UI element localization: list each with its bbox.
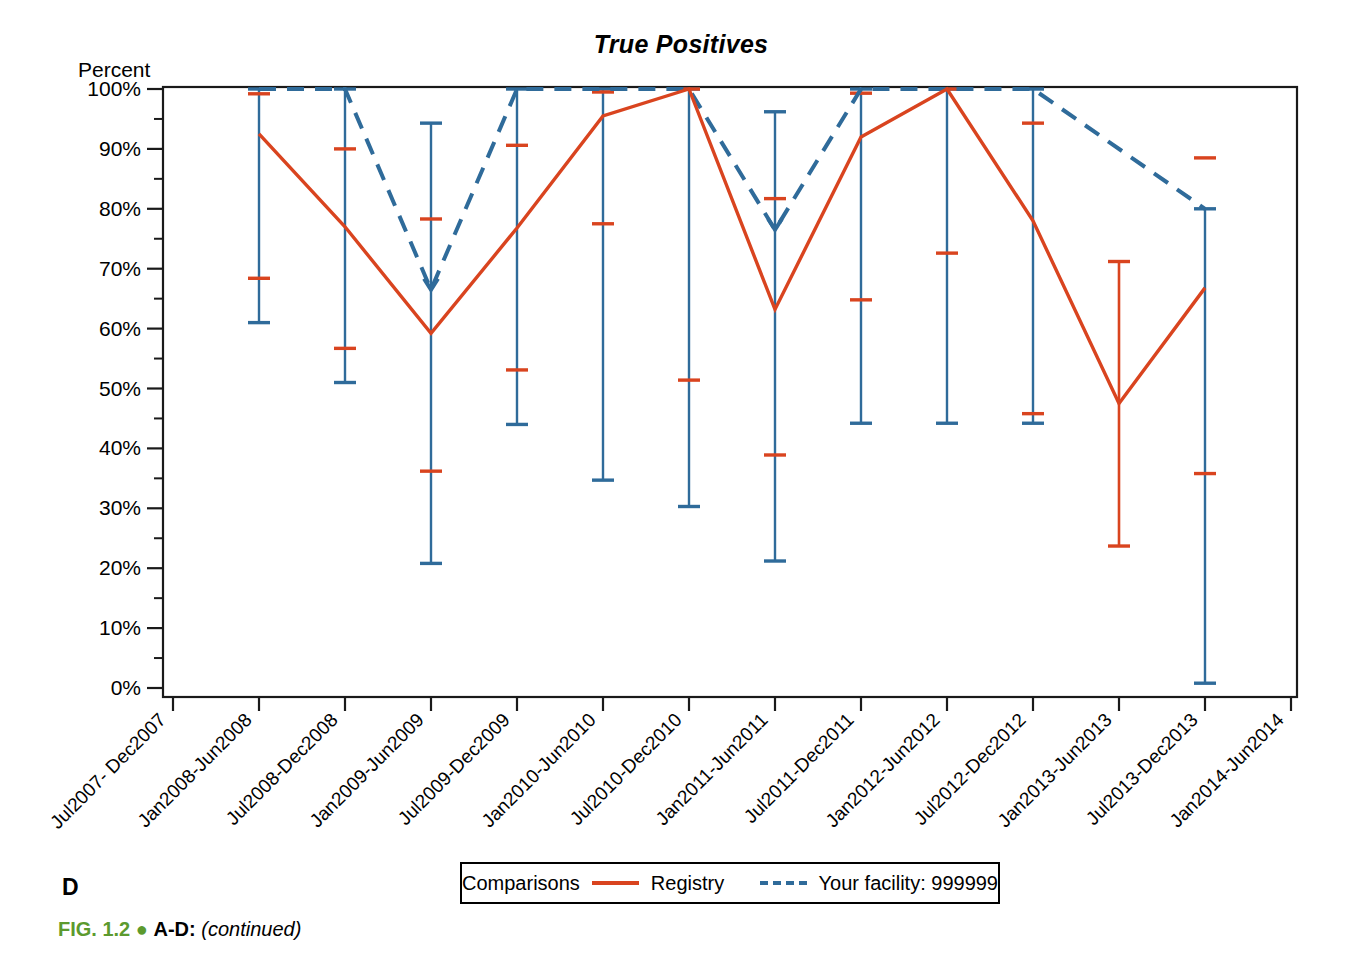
errorbar-facility bbox=[420, 123, 442, 563]
errorbar-facility bbox=[248, 89, 270, 323]
errorbar-facility bbox=[764, 112, 786, 561]
figure-panel-d: True Positives Percent 0%10%20%30%40%50%… bbox=[0, 0, 1362, 959]
errorbar-facility bbox=[1022, 89, 1044, 423]
y-axis-tick-label: 10% bbox=[99, 616, 141, 639]
y-axis-tick-label: 60% bbox=[99, 317, 141, 340]
panel-letter: D bbox=[62, 874, 79, 901]
caption-bullet-icon: ● bbox=[136, 918, 148, 940]
chart-legend: Comparisons Registry Your facility: 9999… bbox=[460, 862, 1000, 904]
caption-figure-number: FIG. 1.2 bbox=[58, 918, 130, 940]
caption-continued: (continued) bbox=[201, 918, 301, 940]
y-axis-tick-label: 40% bbox=[99, 436, 141, 459]
legend-label-facility: Your facility: 999999 bbox=[819, 872, 998, 895]
legend-swatch-facility-icon bbox=[760, 881, 807, 885]
y-axis-tick-label: 30% bbox=[99, 496, 141, 519]
y-axis-tick-label: 100% bbox=[87, 77, 141, 100]
y-axis-tick-label: 0% bbox=[111, 676, 141, 699]
series-line-facility bbox=[259, 89, 1205, 290]
y-axis-tick-label: 20% bbox=[99, 556, 141, 579]
y-axis-tick-label: 80% bbox=[99, 197, 141, 220]
y-axis-tick-label: 50% bbox=[99, 377, 141, 400]
legend-label-registry: Registry bbox=[651, 872, 724, 895]
series-line-registry bbox=[259, 89, 1205, 403]
errorbar-facility bbox=[506, 89, 528, 424]
caption-panel-range: A-D: bbox=[153, 918, 195, 940]
errorbar-facility bbox=[936, 89, 958, 423]
errorbar-facility bbox=[592, 89, 614, 480]
chart-plot-area: 0%10%20%30%40%50%60%70%80%90%100%Jul2007… bbox=[0, 0, 1362, 860]
errorbar-facility bbox=[678, 89, 700, 507]
legend-swatch-registry-icon bbox=[592, 881, 639, 885]
errorbar-facility bbox=[1194, 209, 1216, 683]
figure-caption: FIG. 1.2 ● A-D: (continued) bbox=[58, 918, 301, 941]
y-axis-tick-label: 90% bbox=[99, 137, 141, 160]
y-axis-tick-label: 70% bbox=[99, 257, 141, 280]
legend-group-label: Comparisons bbox=[462, 872, 580, 895]
